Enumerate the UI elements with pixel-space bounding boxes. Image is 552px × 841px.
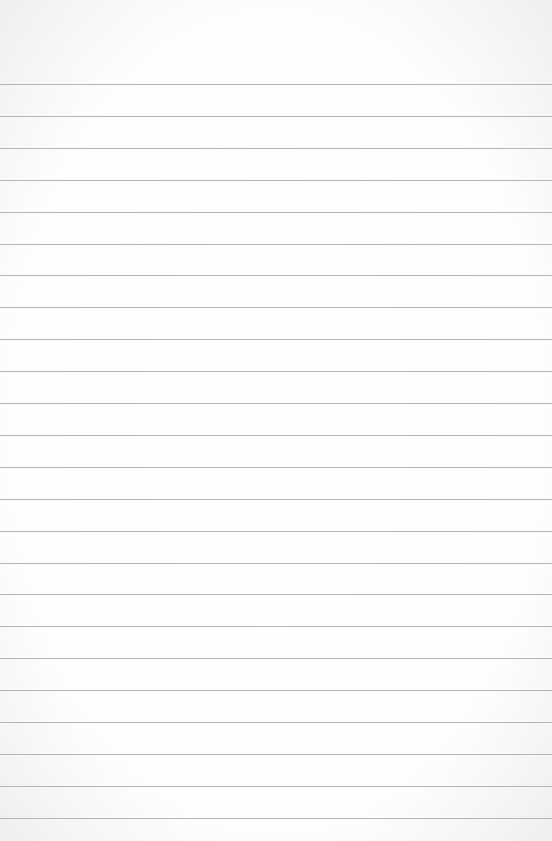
ruled-line xyxy=(0,658,552,659)
ruled-line xyxy=(0,275,552,276)
ruled-line xyxy=(0,116,552,117)
ruled-line xyxy=(0,467,552,468)
ruled-line xyxy=(0,307,552,308)
ruled-line xyxy=(0,339,552,340)
ruled-line xyxy=(0,148,552,149)
ruled-line xyxy=(0,818,552,819)
ruled-line xyxy=(0,212,552,213)
ruled-line xyxy=(0,371,552,372)
ruled-line xyxy=(0,531,552,532)
ruled-line xyxy=(0,786,552,787)
ruled-line xyxy=(0,690,552,691)
ruled-line xyxy=(0,563,552,564)
ruled-line xyxy=(0,244,552,245)
ruled-line xyxy=(0,626,552,627)
ruled-line xyxy=(0,594,552,595)
ruled-line xyxy=(0,180,552,181)
lined-paper xyxy=(0,0,552,841)
ruled-line xyxy=(0,499,552,500)
ruled-line xyxy=(0,722,552,723)
ruled-line xyxy=(0,754,552,755)
ruled-line xyxy=(0,435,552,436)
ruled-line xyxy=(0,84,552,85)
ruled-line xyxy=(0,403,552,404)
